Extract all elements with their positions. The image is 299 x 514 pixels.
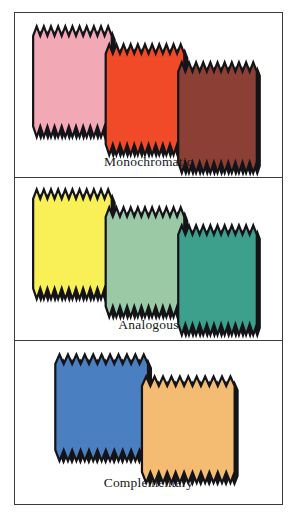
color-swatch-light-green	[106, 207, 185, 317]
panel-monochromatic: Monochromatic	[15, 13, 282, 178]
swatch-group-analogous	[15, 178, 282, 340]
color-swatch-light-pink	[33, 26, 112, 137]
color-swatch-blue	[55, 355, 148, 461]
color-swatch-red-orange	[106, 44, 185, 155]
swatch-group-monochromatic	[15, 13, 282, 177]
figure-frame: Monochromatic Analogous Complementary	[14, 12, 283, 505]
panel-caption-monochromatic: Monochromatic	[15, 155, 282, 169]
panel-analogous: Analogous	[15, 178, 282, 341]
panel-complementary: Complementary	[15, 341, 282, 503]
color-schemes-figure: Monochromatic Analogous Complementary	[0, 0, 299, 514]
color-swatch-yellow	[33, 189, 112, 299]
panel-caption-complementary: Complementary	[15, 476, 282, 490]
color-swatch-light-orange	[142, 377, 235, 483]
panel-caption-analogous: Analogous	[15, 318, 282, 332]
